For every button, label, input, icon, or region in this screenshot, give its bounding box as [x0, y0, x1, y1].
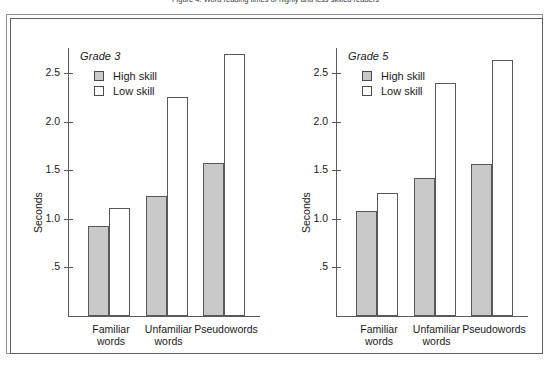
bar-low-skill-pseudowords — [224, 54, 245, 316]
y-tick-mark — [332, 267, 341, 268]
legend-swatch-low-skill-icon — [362, 86, 372, 96]
bar-high-skill-familiar-words — [88, 226, 109, 316]
y-tick-mark — [64, 219, 73, 220]
y-axis-grade3 — [68, 48, 69, 316]
y-tick-label: 1.5 — [24, 163, 60, 175]
y-tick-label: 2.0 — [292, 115, 328, 127]
legend-label-high-skill: High skill — [381, 70, 425, 82]
panel-title-grade3: Grade 3 — [80, 50, 120, 62]
y-tick-label: 1.0 — [292, 212, 328, 224]
chart-panel-grade5: Grade 5 High skill Low skill Seconds .51… — [278, 18, 543, 354]
panel-title-grade5: Grade 5 — [348, 50, 388, 62]
y-tick-label: 1.5 — [292, 163, 328, 175]
legend-grade3: High skill Low skill — [94, 68, 157, 98]
y-tick-mark — [64, 170, 73, 171]
y-tick-mark — [64, 267, 73, 268]
y-tick-mark — [332, 122, 341, 123]
y-tick-label: 2.5 — [24, 66, 60, 78]
bar-low-skill-unfamiliar-words — [167, 97, 188, 316]
bar-high-skill-unfamiliar-words — [146, 196, 167, 316]
chart-panel-grade3: Grade 3 High skill Low skill Seconds .51… — [10, 18, 275, 354]
bar-high-skill-pseudowords — [471, 164, 492, 316]
legend-entry-low-skill: Low skill — [94, 83, 157, 98]
y-tick-label: .5 — [24, 260, 60, 272]
y-tick-mark — [64, 73, 73, 74]
category-label-line: words — [131, 335, 207, 347]
figure-caption: Figure 4. Word reading times of highly a… — [0, 0, 551, 4]
legend-label-low-skill: Low skill — [381, 85, 423, 97]
x-axis-grade3 — [68, 316, 260, 317]
legend-label-high-skill: High skill — [113, 70, 157, 82]
y-axis-grade5 — [336, 48, 337, 316]
bar-low-skill-familiar-words — [109, 208, 130, 316]
bar-high-skill-familiar-words — [356, 211, 377, 316]
bar-low-skill-pseudowords — [492, 60, 513, 316]
legend-swatch-low-skill-icon — [94, 86, 104, 96]
category-label: Pseudowords — [456, 323, 532, 335]
bar-high-skill-unfamiliar-words — [414, 178, 435, 316]
legend-entry-low-skill: Low skill — [362, 83, 425, 98]
y-tick-label: 1.0 — [24, 212, 60, 224]
legend-swatch-high-skill-icon — [94, 71, 104, 81]
legend-entry-high-skill: High skill — [362, 68, 425, 83]
y-tick-mark — [332, 170, 341, 171]
legend-entry-high-skill: High skill — [94, 68, 157, 83]
y-tick-label: .5 — [292, 260, 328, 272]
bar-low-skill-familiar-words — [377, 193, 398, 316]
bar-high-skill-pseudowords — [203, 163, 224, 316]
y-tick-label: 2.5 — [292, 66, 328, 78]
legend-grade5: High skill Low skill — [362, 68, 425, 98]
y-tick-mark — [332, 73, 341, 74]
y-tick-mark — [64, 122, 73, 123]
legend-swatch-high-skill-icon — [362, 71, 372, 81]
x-axis-grade5 — [336, 316, 528, 317]
category-label: Pseudowords — [188, 323, 264, 335]
bar-low-skill-unfamiliar-words — [435, 83, 456, 316]
legend-label-low-skill: Low skill — [113, 85, 155, 97]
y-tick-mark — [332, 219, 341, 220]
category-label-line: Pseudowords — [456, 323, 532, 335]
category-label-line: words — [399, 335, 475, 347]
category-label-line: Pseudowords — [188, 323, 264, 335]
y-tick-label: 2.0 — [24, 115, 60, 127]
